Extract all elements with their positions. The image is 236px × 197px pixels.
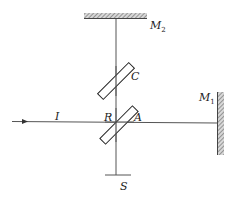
mirror-m2 <box>84 13 147 19</box>
mirror-m2-label: M2 <box>149 19 166 34</box>
mirror-m1-hatch <box>218 92 224 155</box>
reflect-point-label: R <box>103 111 112 124</box>
interferometer-diagram: M2 C I R A S M1 <box>0 0 236 197</box>
mirror-m2-hatch <box>84 13 147 18</box>
mirror-m1-label: M1 <box>198 91 215 106</box>
beam-arrow-icon <box>22 119 28 124</box>
split-point-label: A <box>133 111 142 124</box>
mirror-m1 <box>218 92 225 155</box>
source-label: I <box>54 110 60 123</box>
screen-label: S <box>120 180 128 193</box>
compensator-label: C <box>131 70 140 83</box>
